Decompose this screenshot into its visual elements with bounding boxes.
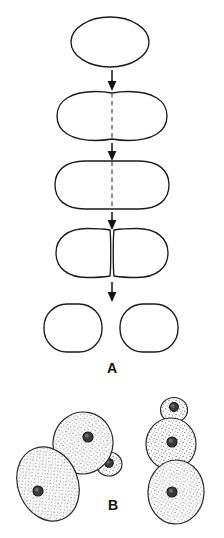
nucleolus <box>35 488 39 492</box>
stage-3-elongated-cell <box>55 161 169 209</box>
figure-canvas: A <box>0 0 224 538</box>
cell-outline <box>71 17 149 67</box>
panel-a-label: A <box>107 360 117 376</box>
cell-outline-left <box>44 304 102 352</box>
cell-outline-right <box>113 229 168 278</box>
nucleolus <box>169 489 173 493</box>
stage-2-constricting-cell <box>57 92 167 141</box>
nucleolus <box>85 434 89 438</box>
cell-outline-right <box>120 304 178 352</box>
cell-outline-left <box>56 229 111 278</box>
stage-1-single-cell <box>71 17 149 67</box>
nucleolus <box>169 439 173 443</box>
nucleolus <box>171 404 175 408</box>
panel-b-label: B <box>108 497 118 513</box>
cell-division-figure: A <box>0 0 224 538</box>
